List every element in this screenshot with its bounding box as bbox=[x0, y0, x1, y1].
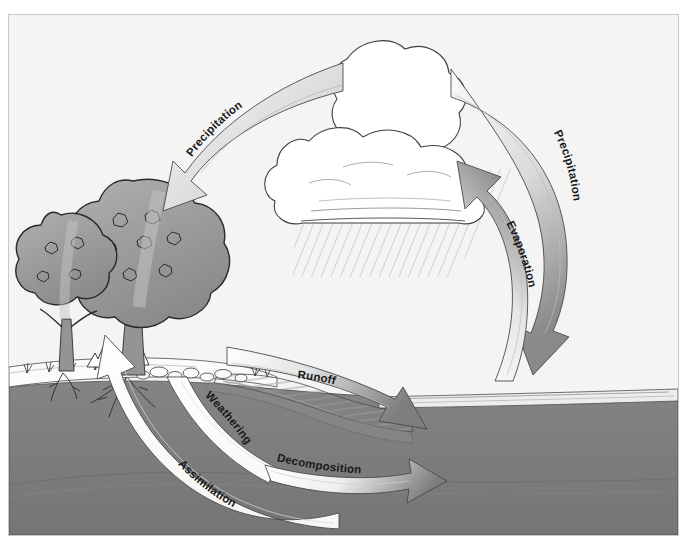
diagram-scene: Precipitation Precipitation Evaporation … bbox=[9, 15, 678, 535]
screenshot-canvas: Precipitation Precipitation Evaporation … bbox=[0, 0, 685, 545]
biogeochemical-cycle-figure: Precipitation Precipitation Evaporation … bbox=[8, 14, 679, 536]
